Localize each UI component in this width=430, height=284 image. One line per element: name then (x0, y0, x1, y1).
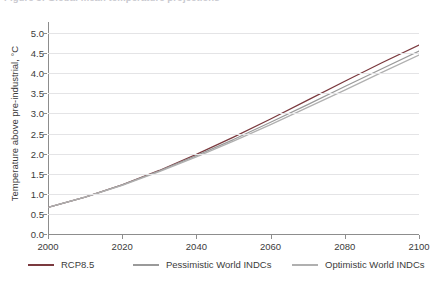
x-axis-tick (419, 235, 420, 239)
figure-title-text: Figure 5: Global mean temperature projec… (0, 0, 429, 5)
x-axis-tick (48, 235, 49, 239)
legend-item[interactable]: Pessimistic World INDCs (133, 258, 271, 272)
y-axis-tick (43, 214, 47, 215)
y-axis-tick (43, 73, 47, 74)
legend-swatch-icon (292, 264, 318, 266)
y-axis-tick (43, 234, 47, 235)
gridline-horizontal (48, 214, 419, 215)
x-axis-tick-label: 2020 (112, 241, 133, 252)
x-axis-tick (271, 235, 272, 239)
y-axis-tick (43, 93, 47, 94)
legend-swatch-icon (28, 264, 54, 266)
y-axis-tick (43, 134, 47, 135)
x-axis-tick-label: 2000 (37, 241, 58, 252)
y-axis-tick (43, 194, 47, 195)
gridline-horizontal (48, 154, 419, 155)
y-axis-tick (43, 33, 47, 34)
gridline-horizontal (48, 53, 419, 54)
chart-line-pessimistic-world-indcs (48, 51, 419, 207)
x-axis-tick-label: 2080 (334, 241, 355, 252)
gridline-horizontal (48, 174, 419, 175)
gridline-horizontal (48, 93, 419, 94)
legend-item[interactable]: RCP8.5 (28, 258, 94, 272)
chart-line-rcp8-5 (48, 45, 419, 207)
clipped-figure-title: Figure 5: Global mean temperature projec… (0, 0, 429, 5)
x-axis-tick (345, 235, 346, 239)
y-axis-tick (43, 154, 47, 155)
legend-label: RCP8.5 (61, 258, 94, 272)
x-axis-tick (196, 235, 197, 239)
gridline-horizontal (48, 73, 419, 74)
gridline-horizontal (48, 194, 419, 195)
gridline-horizontal (48, 134, 419, 135)
gridline-horizontal (48, 33, 419, 34)
plot-area (48, 33, 419, 234)
legend-swatch-icon (133, 264, 159, 266)
chart-legend: RCP8.5Pessimistic World INDCsOptimistic … (0, 258, 429, 274)
x-axis-tick (122, 235, 123, 239)
y-axis-title: Temperature above pre-industrial, °C (9, 19, 20, 229)
y-axis-tick (43, 53, 47, 54)
y-axis-tick (43, 174, 47, 175)
y-axis-tick (43, 113, 47, 114)
y-axis-tick-label: 0.0 (10, 229, 44, 240)
x-axis-tick-label: 2100 (408, 241, 429, 252)
legend-item[interactable]: Optimistic World INDCs (292, 258, 425, 272)
x-axis-tick-labels: 200020202040206020802100 (48, 235, 419, 255)
legend-label: Pessimistic World INDCs (166, 258, 271, 272)
gridline-horizontal (48, 113, 419, 114)
x-axis-tick-label: 2060 (260, 241, 281, 252)
legend-label: Optimistic World INDCs (325, 258, 425, 272)
x-axis-tick-label: 2040 (186, 241, 207, 252)
